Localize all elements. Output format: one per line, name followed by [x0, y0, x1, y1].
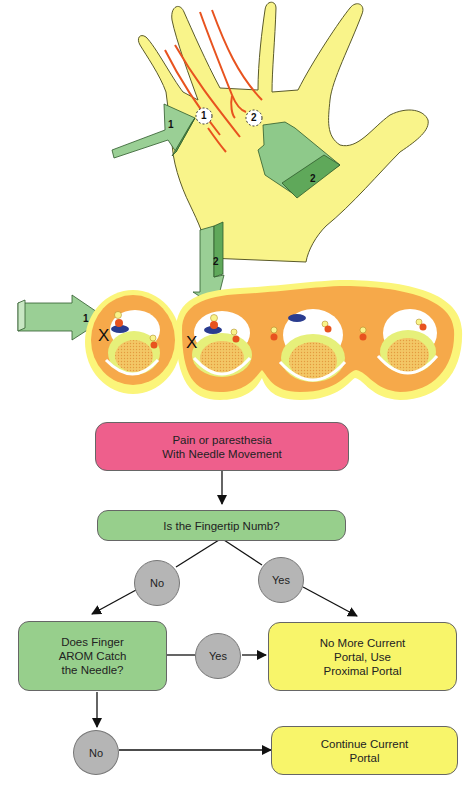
- x-marker-1: X: [98, 326, 109, 346]
- decision-yes-2: Yes: [195, 633, 241, 679]
- cross-section: [85, 280, 462, 400]
- x-marker-2: X: [186, 333, 197, 353]
- decision-no-2: No: [73, 730, 119, 775]
- approach-arrow-1-label: 1: [168, 119, 174, 130]
- question-fingertip-numb: Is the Fingertip Numb?: [97, 510, 346, 541]
- decision-no-1: No: [134, 560, 180, 606]
- portal-marker-1-label: 1: [201, 110, 207, 121]
- section-arrow-2-label: 2: [213, 256, 219, 267]
- hand-illustration: [112, 2, 428, 262]
- section-arrow-1-label: 1: [83, 313, 89, 324]
- approach-arrow-2-label: 2: [310, 173, 316, 184]
- portal-marker-2-label: 2: [251, 112, 257, 123]
- result-proximal-portal: No More Current Portal, Use Proximal Por…: [268, 622, 457, 691]
- start-node: Pain or paresthesia With Needle Movement: [95, 422, 349, 471]
- result-continue-portal: Continue Current Portal: [271, 726, 458, 775]
- decision-yes-1: Yes: [258, 557, 304, 603]
- question-arom-catch-needle: Does Finger AROM Catch the Needle?: [18, 621, 167, 691]
